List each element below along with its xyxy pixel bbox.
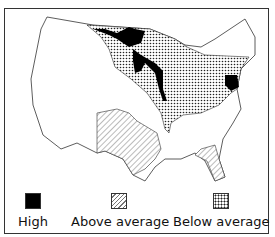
legend-label: Below average: [173, 214, 269, 229]
hatch-swatch-icon: [111, 193, 127, 209]
legend-item-above-average: Above average: [71, 193, 167, 229]
legend-label: Above average: [71, 214, 167, 229]
us-map: [5, 9, 270, 187]
legend-item-below-average: Below average: [173, 193, 269, 229]
legend: High Above average Below average: [5, 187, 270, 233]
cropped-title: [60, 0, 180, 6]
dotted-swatch-icon: [213, 193, 229, 209]
legend-item-high: High: [13, 193, 53, 229]
legend-label: High: [13, 214, 53, 229]
map-figure: High Above average Below average: [4, 8, 269, 234]
high-swatch-icon: [25, 193, 41, 209]
